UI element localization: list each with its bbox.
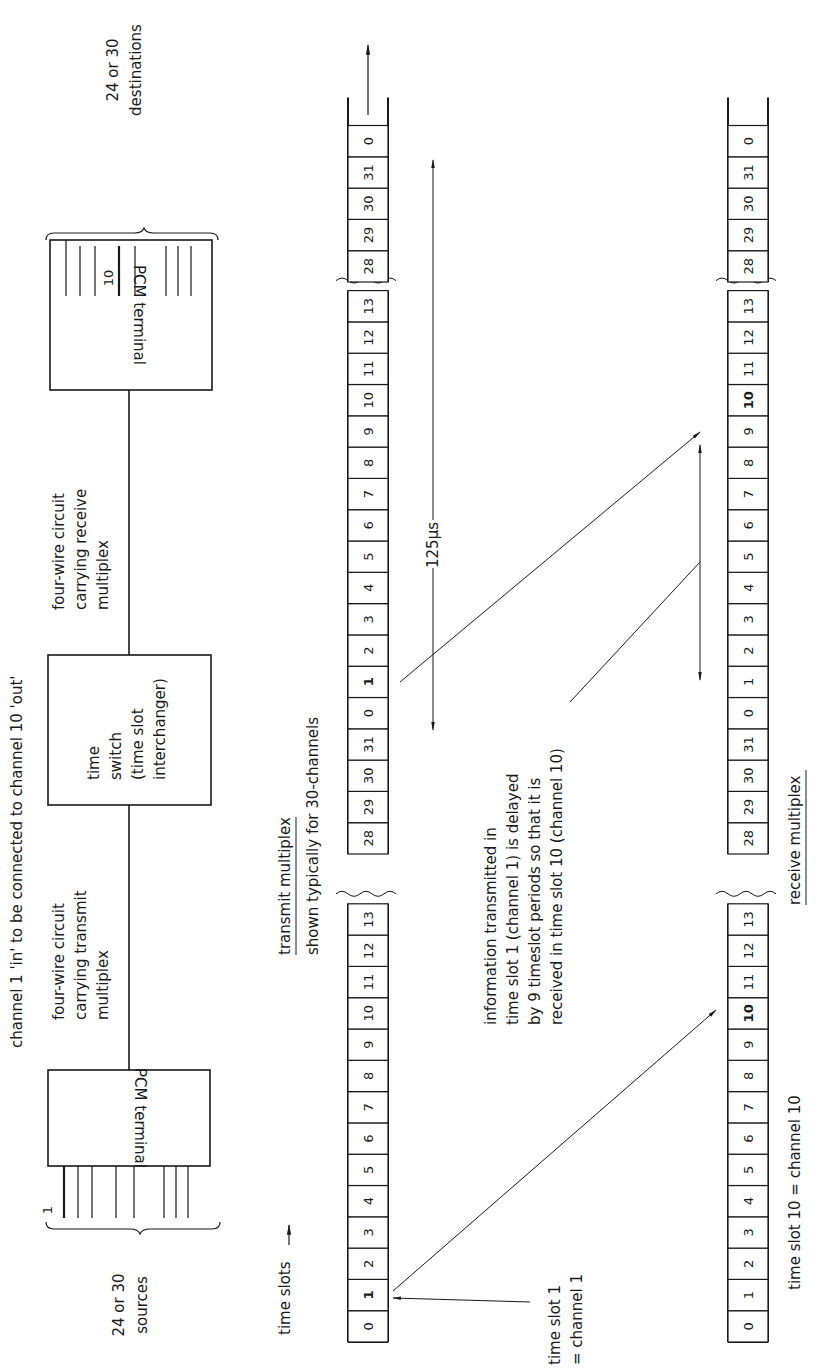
rx-slot-label: 30	[741, 195, 756, 212]
source-1-marker: 1	[40, 1206, 55, 1214]
rx-slot-label: 28	[741, 830, 756, 847]
slot1-note-line1: time slot 1	[546, 1285, 564, 1365]
sources-brace	[46, 1222, 220, 1234]
destination-10-marker: 10	[101, 270, 116, 287]
tx-slot-label: 28	[361, 258, 376, 275]
rx-slot-label: 1	[741, 1291, 756, 1299]
receive-multiplex-title: receive multiplex	[786, 775, 804, 905]
transmit-multiplex-title: transmit multiplex	[276, 817, 294, 955]
tx-slot-label: 29	[361, 227, 376, 244]
destinations-brace	[46, 228, 218, 240]
delay-note-line1: information transmitted in	[482, 827, 500, 1025]
rx-slot-label: 11	[741, 361, 756, 378]
rx-slot-label: 4	[741, 584, 756, 592]
rx-slot-label: 11	[741, 974, 756, 991]
sources-label-line2: sources	[133, 1276, 151, 1334]
tx-slot-label: 5	[361, 1166, 376, 1174]
mapping-arrow-frame2	[400, 432, 700, 682]
rx-slot-label: 0	[741, 137, 756, 145]
transmit-circuit-label-line2: carrying transmit	[72, 890, 90, 1020]
rx-slot-label: 3	[741, 615, 756, 623]
rx-slot-label: 2	[741, 646, 756, 654]
frame-period-label: 125µs	[424, 522, 442, 568]
delay-note-line3: by 9 timeslot periods so that it is	[526, 777, 544, 1025]
rx-slot-label: 12	[741, 329, 756, 346]
tx-slot-label: 0	[361, 709, 376, 717]
tx-slot-label: 6	[361, 1134, 376, 1142]
tx-slot-label: 6	[361, 521, 376, 529]
rx-slot-label: 10	[741, 1004, 756, 1022]
tx-slot-label: 8	[361, 459, 376, 467]
tx-slot-label: 12	[361, 329, 376, 346]
tx-slot-label: 2	[361, 1260, 376, 1268]
time-switch-line1: time	[85, 746, 103, 780]
tx-slot-label: 13	[361, 298, 376, 315]
rx-slot-label: 7	[741, 490, 756, 498]
transmit-circuit-label-line1: four-wire circuit	[50, 903, 68, 1020]
rx-slot-label: 13	[741, 911, 756, 928]
rx-slot-label: 9	[741, 1041, 756, 1049]
slot1-pointer-arrow	[393, 1298, 530, 1302]
left-pcm-terminal	[48, 1070, 210, 1166]
rx-slot-label: 29	[741, 227, 756, 244]
tx-slot-label: 10	[361, 392, 376, 409]
rx-slot-label: 1	[741, 678, 756, 686]
tx-slot-label: 10	[361, 1005, 376, 1022]
source-lines	[64, 1166, 188, 1218]
tx-slot-label: 4	[361, 584, 376, 592]
slot1-note-line2: = channel 1	[568, 1274, 586, 1365]
slot10-note: time slot 10 = channel 10	[786, 1095, 804, 1290]
delay-note-leader	[570, 562, 700, 702]
tx-slot-label: 28	[361, 830, 376, 847]
tx-slot-label: 7	[361, 490, 376, 498]
rx-slot-label: 31	[741, 736, 756, 753]
rx-slot-label: 31	[741, 164, 756, 181]
tx-slot-label: 12	[361, 942, 376, 959]
time-slots-label: time slots	[276, 1261, 294, 1335]
transmit-multiplex-subtitle: shown typically for 30-channels	[304, 717, 322, 955]
delay-note-line2: time slot 1 (channel 1) is delayed	[504, 774, 522, 1025]
rx-slot-label: 8	[741, 459, 756, 467]
tx-slot-label: 31	[361, 736, 376, 753]
rx-slot-label: 5	[741, 553, 756, 561]
tx-slot-label: 13	[361, 911, 376, 928]
rx-slot-label: 6	[741, 1134, 756, 1142]
transmit-multiplex-strip: 0123456789101112132829303101234567891011…	[336, 45, 396, 1342]
destinations-label-line2: destinations	[127, 24, 145, 116]
time-switch-line2: switch	[107, 732, 125, 780]
rx-slot-label: 0	[741, 1322, 756, 1330]
time-switch-line4: interchanger)	[151, 678, 169, 780]
tx-slot-label: 1	[361, 677, 376, 686]
rx-slot-label: 6	[741, 521, 756, 529]
tx-slot-label: 9	[361, 1041, 376, 1049]
diagram-title: channel 1 'in' to be connected to channe…	[8, 676, 26, 1048]
receive-multiplex-strip: 0123456789101112132829303101234567891011…	[716, 98, 776, 1343]
time-switch-line3: (time slot	[129, 708, 147, 780]
transmit-circuit-label-line3: multiplex	[94, 950, 112, 1020]
rx-slot-label: 30	[741, 767, 756, 784]
right-pcm-terminal-label: PCM terminal	[130, 265, 148, 365]
left-pcm-terminal-label: PCM terminal	[131, 1068, 149, 1168]
tx-slot-label: 3	[361, 615, 376, 623]
rx-slot-label: 7	[741, 1103, 756, 1111]
rx-slot-label: 9	[741, 427, 756, 435]
rx-slot-label: 8	[741, 1072, 756, 1080]
tx-slot-label: 5	[361, 553, 376, 561]
pcm-time-switch-diagram: PCM terminal 1 24 or 30 sources four-wir…	[0, 0, 829, 1371]
receive-circuit-label-line1: four-wire circuit	[50, 493, 68, 610]
destinations-label-line1: 24 or 30	[104, 38, 122, 101]
tx-slot-label: 3	[361, 1228, 376, 1236]
rx-slot-label: 13	[741, 298, 756, 315]
rx-slot-label: 28	[741, 258, 756, 275]
rx-slot-label: 12	[741, 942, 756, 959]
sources-label-line1: 24 or 30	[110, 1273, 128, 1336]
tx-slot-label: 31	[361, 164, 376, 181]
tx-slot-label: 9	[361, 427, 376, 435]
rx-slot-label: 29	[741, 799, 756, 816]
tx-slot-label: 1	[361, 1291, 376, 1300]
rx-slot-label: 5	[741, 1166, 756, 1174]
tx-slot-label: 30	[361, 195, 376, 212]
rx-slot-label: 3	[741, 1228, 756, 1236]
delay-note-line4: received in time slot 10 (channel 10)	[548, 748, 566, 1025]
tx-slot-label: 0	[361, 1322, 376, 1330]
